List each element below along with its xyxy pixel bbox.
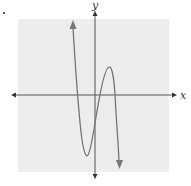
x-axis-left-arrow-icon — [11, 93, 16, 98]
x-axis-right-arrow-icon — [172, 93, 177, 98]
y-axis-label: y — [91, 0, 99, 12]
function-graph: x y — [0, 0, 191, 186]
y-axis-down-arrow-icon — [93, 174, 98, 179]
graph-figure: x y — [0, 0, 191, 186]
x-axis-label: x — [180, 89, 187, 102]
